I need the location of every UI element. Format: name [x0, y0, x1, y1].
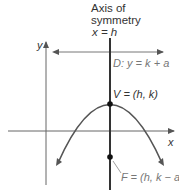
focus-point [107, 154, 113, 160]
x-axis-label: x [168, 136, 174, 148]
parabola-diagram: Axis of symmetry x = h y x D: y = k + a … [0, 0, 179, 195]
focus-leader-line [113, 161, 121, 173]
axis-of-symmetry-title-line1: Axis of [91, 2, 126, 14]
vertex-label: V = (h, k) [113, 88, 158, 100]
directrix-label: D: y = k + a [113, 57, 169, 69]
y-axis-label: y [37, 39, 43, 51]
axis-of-symmetry-equation: x = h [92, 26, 117, 38]
focus-label: F = (h, k − a) [121, 171, 179, 183]
vertex-point [107, 101, 113, 107]
axis-of-symmetry-title-line2: symmetry [91, 14, 141, 26]
